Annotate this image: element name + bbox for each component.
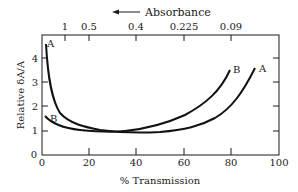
x-tick-label: 20 [83, 157, 96, 168]
x-tick-label: 100 [269, 157, 288, 168]
series-b-label: B [50, 113, 57, 124]
x-tick-label: 80 [225, 157, 238, 168]
top-axis-title: Absorbance [112, 6, 211, 19]
top-tick-label: 1 [62, 21, 68, 32]
x-axis: 0 20 40 60 80 100 % Transmission [39, 148, 289, 186]
y-tick-label: 2 [32, 101, 38, 112]
arrow-left-icon [112, 10, 119, 15]
x-axis-label: % Transmission [120, 175, 201, 186]
x-tick-label: 40 [130, 157, 143, 168]
y-tick-label: 3 [32, 77, 38, 88]
series-a-line [46, 44, 255, 132]
series-a-label: A [46, 38, 55, 49]
top-tick-label: 0.4 [128, 21, 144, 32]
y-tick-label: 1 [32, 125, 38, 136]
top-axis: 1 0.5 0.4 0.225 0.09 [62, 21, 242, 41]
top-tick-label: 0.09 [220, 21, 242, 32]
chart: Absorbance 1 0.5 0.4 0.225 0.09 0 20 40 … [0, 0, 298, 192]
top-tick-label: 0.5 [81, 21, 97, 32]
plot-frame [42, 35, 279, 155]
y-axis: 0 1 2 3 4 Relative δA/A [15, 53, 48, 160]
right-axis [273, 58, 279, 131]
x-tick-label: 60 [178, 157, 191, 168]
x-tick-label: 0 [39, 157, 45, 168]
y-tick-label: 4 [32, 53, 38, 64]
series-b-label: B [233, 64, 240, 75]
series-a-label: A [258, 63, 267, 74]
top-tick-label: 0.225 [170, 21, 199, 32]
y-axis-label: Relative δA/A [15, 60, 26, 129]
top-axis-label: Absorbance [144, 6, 211, 19]
y-tick-label: 0 [31, 149, 37, 160]
